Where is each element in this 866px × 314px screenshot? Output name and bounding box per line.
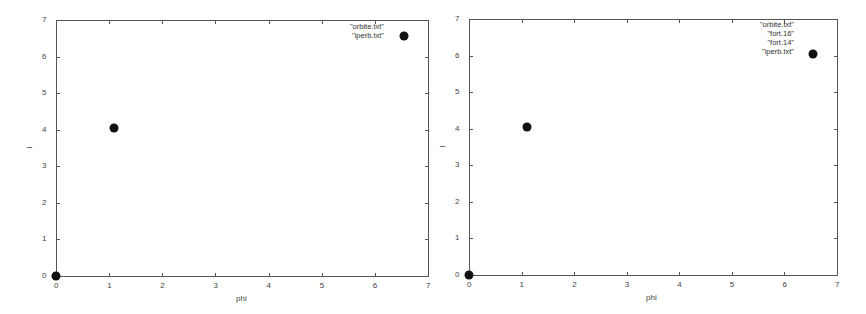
y-tick-right	[834, 129, 838, 130]
legend-entry: "orbite.txt"	[350, 22, 384, 31]
y-axis-label: I	[25, 146, 34, 148]
x-tick-label: 5	[320, 281, 324, 290]
legend-entry: "iperb.txt"	[760, 47, 794, 56]
x-tick-top	[322, 20, 323, 24]
data-point	[809, 49, 818, 58]
y-tick-label: 0	[455, 270, 459, 279]
x-tick	[784, 272, 785, 276]
x-tick	[269, 273, 270, 277]
plot-area	[56, 20, 429, 277]
y-tick	[56, 166, 60, 167]
y-tick-right	[834, 92, 838, 93]
x-tick-label: 7	[835, 280, 839, 289]
y-tick	[56, 130, 60, 131]
y-tick	[56, 239, 60, 240]
x-tick	[109, 273, 110, 277]
y-tick-right	[834, 165, 838, 166]
x-tick	[522, 272, 523, 276]
x-tick-top	[162, 20, 163, 24]
y-tick-label: 7	[455, 14, 459, 23]
x-tick-top	[428, 20, 429, 24]
y-tick	[56, 57, 60, 58]
x-tick	[679, 272, 680, 276]
y-tick	[56, 93, 60, 94]
x-tick	[375, 273, 376, 277]
x-tick-label: 2	[160, 281, 164, 290]
y-tick-right	[425, 93, 429, 94]
y-tick-label: 4	[42, 125, 46, 134]
y-tick	[469, 202, 473, 203]
y-tick-label: 7	[42, 15, 46, 24]
legend: "orbite.txt""fort.16""fort.14""iperb.txt…	[760, 20, 794, 56]
x-tick-top	[269, 20, 270, 24]
y-tick-right	[834, 238, 838, 239]
x-tick-label: 0	[467, 280, 471, 289]
legend: "orbite.txt""iperb.txt"	[350, 22, 384, 40]
data-point	[522, 122, 531, 131]
y-tick-right	[425, 166, 429, 167]
y-tick-label: 2	[455, 197, 459, 206]
x-tick-label: 3	[625, 280, 629, 289]
x-tick-top	[56, 20, 57, 24]
legend-entry: "fort.16"	[760, 29, 794, 38]
y-tick-label: 0	[42, 271, 46, 280]
y-tick	[469, 165, 473, 166]
x-tick	[837, 272, 838, 276]
x-tick	[627, 272, 628, 276]
y-tick-right	[425, 130, 429, 131]
x-tick-label: 7	[426, 281, 430, 290]
y-axis-label: I	[438, 145, 447, 147]
x-tick-label: 5	[730, 280, 734, 289]
x-tick-label: 0	[54, 281, 58, 290]
y-tick	[469, 238, 473, 239]
y-tick-label: 5	[42, 88, 46, 97]
legend-entry: "fort.14"	[760, 38, 794, 47]
x-axis-label: phi	[646, 293, 657, 302]
x-tick-top	[732, 19, 733, 23]
x-tick	[322, 273, 323, 277]
x-tick-top	[837, 19, 838, 23]
y-tick	[469, 129, 473, 130]
y-tick-label: 6	[455, 51, 459, 60]
x-tick-label: 1	[520, 280, 524, 289]
y-tick-label: 4	[455, 124, 459, 133]
data-point	[465, 271, 474, 280]
legend-entry: "orbite.txt"	[760, 20, 794, 29]
x-tick-top	[574, 19, 575, 23]
plot-area	[469, 19, 838, 276]
x-tick-top	[522, 19, 523, 23]
x-tick	[162, 273, 163, 277]
data-point	[400, 32, 409, 41]
y-tick-right	[834, 56, 838, 57]
x-tick-label: 1	[107, 281, 111, 290]
x-tick-label: 4	[677, 280, 681, 289]
x-tick-top	[215, 20, 216, 24]
x-axis-label: phi	[236, 294, 247, 303]
y-tick-right	[834, 202, 838, 203]
x-tick-label: 2	[572, 280, 576, 289]
y-tick-label: 3	[455, 160, 459, 169]
x-tick-top	[109, 20, 110, 24]
y-tick-label: 1	[455, 233, 459, 242]
y-tick-right	[425, 57, 429, 58]
x-tick-top	[627, 19, 628, 23]
y-tick	[56, 203, 60, 204]
x-tick-top	[469, 19, 470, 23]
y-tick-label: 5	[455, 87, 459, 96]
x-tick	[574, 272, 575, 276]
y-tick-right	[425, 239, 429, 240]
y-tick-label: 2	[42, 198, 46, 207]
y-tick-label: 1	[42, 234, 46, 243]
y-tick	[469, 56, 473, 57]
x-tick	[428, 273, 429, 277]
y-tick-label: 3	[42, 161, 46, 170]
y-tick-label: 6	[42, 52, 46, 61]
x-tick-label: 6	[782, 280, 786, 289]
x-tick-label: 4	[267, 281, 271, 290]
y-tick-right	[425, 203, 429, 204]
x-tick	[732, 272, 733, 276]
data-point	[52, 272, 61, 281]
x-tick-top	[679, 19, 680, 23]
x-tick-label: 3	[213, 281, 217, 290]
x-tick	[215, 273, 216, 277]
